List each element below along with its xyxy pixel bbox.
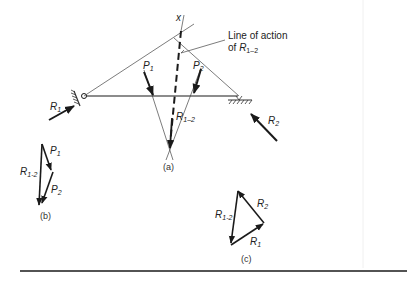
- p1-arrow: [144, 72, 153, 95]
- c-r1-label: R1: [250, 236, 261, 248]
- part-b-force-polygon: P1 P2 R1-2 (b): [20, 144, 62, 221]
- c-r2-label: R2: [257, 198, 268, 210]
- r1-label: R1: [50, 101, 61, 113]
- annotation-line1: Line of action: [228, 30, 288, 41]
- p1-label: P1: [143, 60, 154, 72]
- force-diagram: x Line of action of R1–2 P1 P2 R1–2 R1 R…: [0, 0, 407, 285]
- r12-arrow: [170, 118, 172, 148]
- r1-line-of-action: [84, 24, 194, 96]
- r12-label: R1–2: [176, 111, 195, 123]
- b-p1-label: P1: [50, 145, 61, 157]
- caption-b: (b): [40, 211, 51, 221]
- right-support: [228, 96, 252, 104]
- b-r12-label: R1-2: [20, 166, 37, 178]
- apex-label: x: [175, 12, 182, 23]
- annotation-leader: [181, 40, 225, 53]
- p2-arrow: [194, 69, 201, 93]
- r2-label: R2: [268, 115, 279, 127]
- apex-line: [181, 15, 184, 31]
- b-p2-label: P2: [51, 184, 62, 196]
- caption-c: (c): [241, 254, 252, 264]
- c-r12-label: R1-2: [215, 209, 232, 221]
- b-r12-arrow: [39, 144, 42, 205]
- part-c-force-polygon: R1 R2 R1-2 (c): [215, 191, 268, 264]
- part-a-space-diagram: x Line of action of R1–2 P1 P2 R1–2 R1 R…: [49, 12, 288, 172]
- caption-a: (a): [163, 162, 174, 172]
- annotation-line2: of R1–2: [228, 42, 258, 54]
- left-pin-support: [71, 90, 87, 106]
- p2-line-of-action: [166, 68, 201, 160]
- p2-label: P2: [193, 60, 204, 72]
